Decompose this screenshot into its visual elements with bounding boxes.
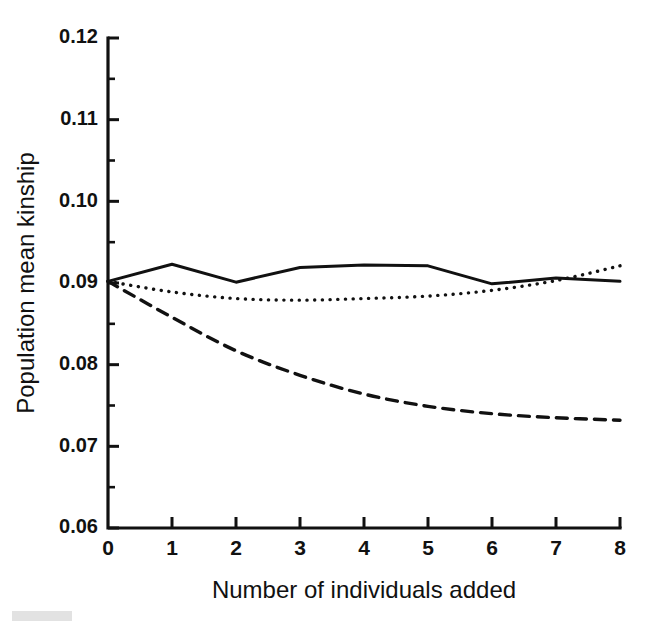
x-tick-label: 0 <box>102 536 114 559</box>
x-tick-label: 8 <box>614 536 626 559</box>
x-tick-label: 5 <box>422 536 434 559</box>
y-axis-tick-labels: 0.120.110.100.090.080.070.06 <box>59 25 98 537</box>
caption-fragment <box>12 611 72 621</box>
x-tick-label: 1 <box>166 536 178 559</box>
y-tick-label: 0.06 <box>59 515 98 537</box>
y-tick-label: 0.08 <box>59 352 98 374</box>
x-tick-label: 4 <box>358 536 370 559</box>
x-tick-label: 2 <box>230 536 242 559</box>
series-dashed <box>108 281 620 420</box>
y-axis-title: Population mean kinship <box>12 152 39 414</box>
data-series <box>108 264 620 420</box>
x-axis-title: Number of individuals added <box>212 576 516 603</box>
y-tick-label: 0.12 <box>59 25 98 47</box>
x-tick-label: 6 <box>486 536 498 559</box>
y-tick-label: 0.07 <box>59 434 98 456</box>
y-tick-label: 0.10 <box>59 189 98 211</box>
line-chart: 0.120.110.100.090.080.070.06 012345678 N… <box>0 0 650 625</box>
y-tick-label: 0.09 <box>59 270 98 292</box>
x-axis-tick-labels: 012345678 <box>102 536 626 559</box>
series-solid <box>108 264 620 284</box>
series-dotted <box>108 266 620 300</box>
x-tick-label: 3 <box>294 536 306 559</box>
x-tick-label: 7 <box>550 536 562 559</box>
figure-container: 0.120.110.100.090.080.070.06 012345678 N… <box>0 0 650 625</box>
y-tick-label: 0.11 <box>60 107 98 129</box>
